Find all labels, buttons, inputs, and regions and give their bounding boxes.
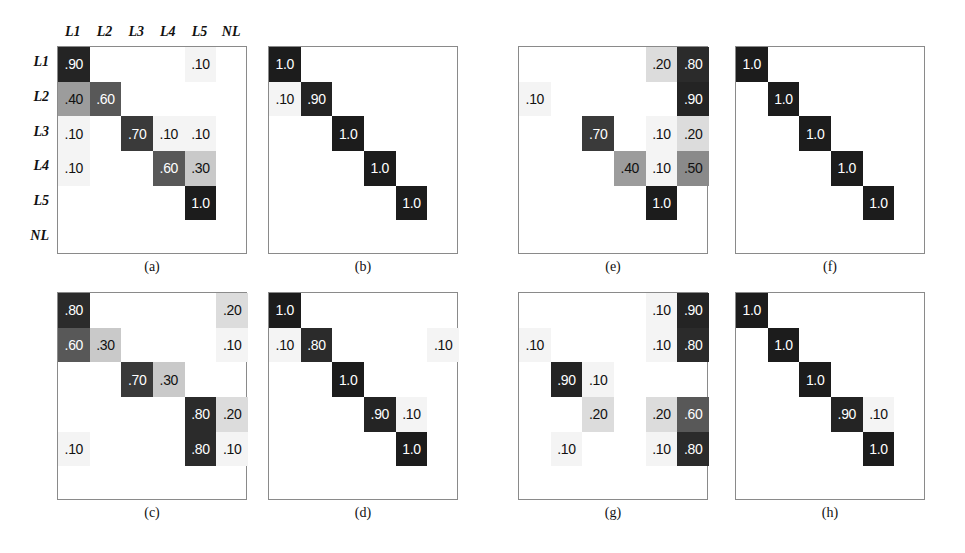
matrix-cell: .80: [677, 432, 709, 467]
matrix-cell: .60: [90, 82, 122, 117]
matrix-cell: .10: [646, 116, 678, 151]
matrix-cell: .10: [427, 328, 459, 363]
matrix-cell: .90: [301, 82, 333, 117]
matrix-panel-b: 1.0.10.901.01.01.0(b): [0, 0, 965, 553]
panel-caption-b: (b): [268, 259, 458, 275]
matrix-cell: 1.0: [768, 328, 800, 363]
matrix-cell: .20: [582, 397, 614, 432]
matrix-cell: .10: [153, 116, 185, 151]
matrix-cell: .80: [677, 328, 709, 363]
matrix-panel-d: 1.0.10.80.101.0.90.101.0(d): [0, 0, 965, 553]
matrix-cell: .20: [216, 293, 248, 328]
panel-caption-h: (h): [735, 505, 925, 521]
matrix-cell: 1.0: [396, 432, 428, 467]
panel-caption-f: (f): [735, 259, 925, 275]
matrix-cell: .90: [677, 293, 709, 328]
row-header-l4: L4: [9, 158, 49, 174]
matrix-plot-area-e: .20.80.10.90.70.10.20.40.10.501.0: [518, 46, 708, 254]
matrix-cell: .30: [153, 362, 185, 397]
matrix-cell: 1.0: [269, 47, 301, 82]
matrix-cell: .40: [614, 151, 646, 186]
matrix-cell: 1.0: [185, 186, 217, 221]
matrix-cell: .60: [677, 397, 709, 432]
matrix-cell: 1.0: [269, 293, 301, 328]
column-header-l2: L2: [89, 24, 121, 40]
column-header-l3: L3: [120, 24, 152, 40]
matrix-cell: .10: [646, 151, 678, 186]
matrix-cell: .80: [185, 397, 217, 432]
matrix-panel-c: .80.20.60.30.10.70.30.80.20.10.80.10(c): [0, 0, 965, 553]
matrix-cell: 1.0: [768, 82, 800, 117]
matrix-cell: 1.0: [831, 151, 863, 186]
matrix-cell: 1.0: [646, 186, 678, 221]
matrix-cell: .90: [364, 397, 396, 432]
matrix-cell: .80: [185, 432, 217, 467]
matrix-cell: 1.0: [799, 362, 831, 397]
matrix-cell: .90: [831, 397, 863, 432]
matrix-panel-a: .90.10.40.60.10.70.10.10.10.60.301.0L1L1…: [0, 0, 965, 553]
matrix-cell: 1.0: [736, 293, 768, 328]
matrix-plot-area-d: 1.0.10.80.101.0.90.101.0: [268, 292, 458, 500]
row-header-l1: L1: [9, 54, 49, 70]
matrix-cell: .10: [216, 432, 248, 467]
matrix-cell: .10: [269, 82, 301, 117]
matrix-cell: .10: [396, 397, 428, 432]
matrix-cell: 1.0: [396, 186, 428, 221]
panel-caption-c: (c): [57, 505, 247, 521]
row-header-l5: L5: [9, 193, 49, 209]
matrix-plot-area-b: 1.0.10.901.01.01.0: [268, 46, 458, 254]
matrix-cell: .10: [519, 82, 551, 117]
matrix-panel-g: .10.90.10.10.80.90.10.20.20.60.10.10.80(…: [0, 0, 965, 553]
matrix-cell: .10: [646, 293, 678, 328]
matrix-cell: .10: [269, 328, 301, 363]
confusion-matrix-figure: .90.10.40.60.10.70.10.10.10.60.301.0L1L1…: [0, 0, 965, 553]
panel-caption-a: (a): [57, 259, 247, 275]
matrix-cell: .10: [582, 362, 614, 397]
matrix-plot-area-c: .80.20.60.30.10.70.30.80.20.10.80.10: [57, 292, 247, 500]
matrix-cell: .10: [551, 432, 583, 467]
matrix-cell: .20: [646, 397, 678, 432]
row-header-l2: L2: [9, 89, 49, 105]
matrix-cell: .10: [185, 47, 217, 82]
row-header-l3: L3: [9, 124, 49, 140]
column-header-nl: NL: [215, 24, 247, 40]
matrix-plot-area-h: 1.01.01.0.90.101.0: [735, 292, 925, 500]
matrix-cell: .20: [677, 116, 709, 151]
matrix-cell: .70: [582, 116, 614, 151]
matrix-cell: 1.0: [332, 116, 364, 151]
matrix-cell: .40: [58, 82, 90, 117]
matrix-cell: .30: [185, 151, 217, 186]
matrix-cell: .80: [677, 47, 709, 82]
matrix-cell: 1.0: [332, 362, 364, 397]
matrix-plot-area-a: .90.10.40.60.10.70.10.10.10.60.301.0: [57, 46, 247, 254]
matrix-cell: .30: [90, 328, 122, 363]
matrix-cell: .80: [301, 328, 333, 363]
matrix-cell: .10: [863, 397, 895, 432]
matrix-panel-e: .20.80.10.90.70.10.20.40.10.501.0(e): [0, 0, 965, 553]
matrix-cell: 1.0: [863, 186, 895, 221]
matrix-cell: .70: [121, 116, 153, 151]
matrix-cell: .80: [58, 293, 90, 328]
matrix-cell: .50: [677, 151, 709, 186]
matrix-panel-f: 1.01.01.01.01.0(f): [0, 0, 965, 553]
matrix-cell: .90: [58, 47, 90, 82]
matrix-panel-h: 1.01.01.0.90.101.0(h): [0, 0, 965, 553]
matrix-cell: .10: [58, 151, 90, 186]
panel-caption-d: (d): [268, 505, 458, 521]
column-header-l5: L5: [184, 24, 216, 40]
matrix-cell: .20: [646, 47, 678, 82]
matrix-cell: .10: [58, 432, 90, 467]
matrix-cell: 1.0: [736, 47, 768, 82]
matrix-cell: 1.0: [863, 432, 895, 467]
row-header-nl: NL: [9, 228, 49, 244]
matrix-cell: .10: [646, 432, 678, 467]
column-header-l4: L4: [152, 24, 184, 40]
matrix-cell: .10: [185, 116, 217, 151]
column-header-l1: L1: [57, 24, 89, 40]
matrix-cell: .60: [153, 151, 185, 186]
matrix-plot-area-g: .10.90.10.10.80.90.10.20.20.60.10.10.80: [518, 292, 708, 500]
panel-caption-e: (e): [518, 259, 708, 275]
panel-caption-g: (g): [518, 505, 708, 521]
matrix-cell: .10: [58, 116, 90, 151]
matrix-plot-area-f: 1.01.01.01.01.0: [735, 46, 925, 254]
